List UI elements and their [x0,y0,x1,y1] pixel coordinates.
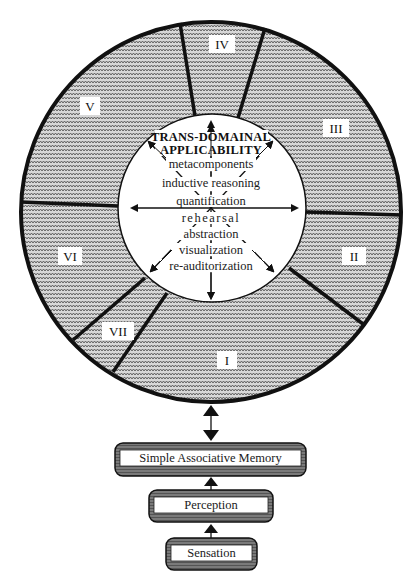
svg-text:III: III [330,121,343,136]
bidirectional-arrow [203,405,219,441]
segment-label-v: V [80,97,100,115]
item-metacomponents: metacomponents [169,157,254,171]
item-re-auditorization: re-auditorization [169,259,253,273]
segment-label-iii: III [323,119,349,137]
arrow-sensation-to-perception [204,524,218,538]
center-title-line2: APPLICABILITY [160,143,262,157]
box-label: Sensation [187,546,236,560]
svg-text:I: I [225,353,229,368]
svg-text:VII: VII [109,324,127,339]
box-sensation: Sensation [166,538,257,570]
svg-text:II: II [350,249,359,264]
svg-text:VI: VI [63,249,77,264]
box-simple-associative-memory: Simple Associative Memory [115,443,306,476]
diagram-canvas: TRANS-DOMAINAL APPLICABILITY metacompone… [0,0,414,585]
item-rehearsal: rehearsal [182,211,241,225]
arrow-perception-to-memory [204,477,218,490]
item-quantification: quantification [176,194,246,208]
segment-label-iv: IV [209,35,235,53]
svg-text:IV: IV [215,37,229,52]
item-visualization: visualization [179,243,244,257]
segment-label-vii: VII [102,322,134,340]
item-inductive-reasoning: inductive reasoning [162,176,261,190]
segment-label-vi: VI [58,247,82,265]
box-label: Perception [184,498,238,512]
segment-label-ii: II [342,247,366,265]
svg-text:V: V [85,99,95,114]
item-abstraction: abstraction [184,227,240,241]
center-title-line1: TRANS-DOMAINAL [151,130,271,144]
box-perception: Perception [149,490,273,522]
box-label: Simple Associative Memory [139,451,282,465]
segment-label-i: I [217,351,237,369]
